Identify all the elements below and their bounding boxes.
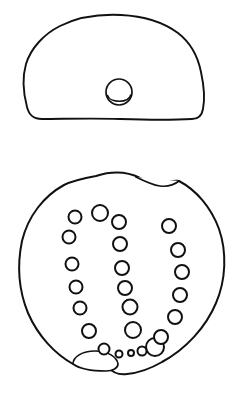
perforation-hole bbox=[99, 344, 110, 355]
perforation-hole bbox=[154, 330, 168, 344]
perforation-hole bbox=[116, 351, 123, 358]
perforation-hole bbox=[92, 205, 108, 221]
perforation-hole bbox=[173, 288, 187, 302]
perforation-hole bbox=[112, 215, 126, 229]
perforation-hole bbox=[125, 322, 141, 338]
profile-view bbox=[23, 15, 204, 120]
perforation-hole bbox=[118, 281, 132, 295]
artifact-drawing bbox=[0, 0, 243, 399]
perforation-hole bbox=[171, 243, 185, 257]
plan-view bbox=[19, 173, 224, 374]
perforation-hole bbox=[69, 211, 82, 224]
perforation-hole bbox=[70, 281, 83, 294]
perforation-hole bbox=[115, 261, 129, 275]
perforation-hole bbox=[162, 219, 176, 233]
perforation-hole bbox=[175, 265, 189, 279]
perforation-hole bbox=[128, 350, 134, 356]
perforation-hole bbox=[63, 231, 76, 244]
perforation-hole bbox=[138, 347, 147, 356]
perforation-hole bbox=[82, 324, 96, 338]
perforation-hole bbox=[168, 310, 182, 324]
figure-plate bbox=[0, 0, 243, 399]
perforation-hole bbox=[123, 300, 138, 315]
perforation-hole bbox=[66, 258, 79, 271]
perforation-hole bbox=[74, 302, 87, 315]
perforation-hole bbox=[113, 237, 127, 251]
